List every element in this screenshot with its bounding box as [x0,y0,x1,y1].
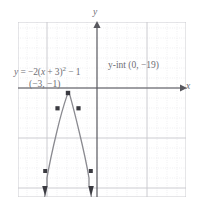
axis-x [18,84,187,91]
curve-arrow-right [88,186,93,196]
axis-y [93,21,100,197]
parabola-curve [45,93,92,197]
parabola-figure: y = −2(x + 3)2 − 1 (−3, −1) y-int (0, −1… [0,0,197,208]
graph-canvas [0,0,197,208]
